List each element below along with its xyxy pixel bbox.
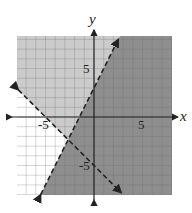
x-tick-neg5: -5 — [38, 117, 49, 132]
y-tick-neg5: -5 — [79, 158, 90, 173]
x-tick-pos5: 5 — [138, 117, 145, 132]
y-tick-pos5: 5 — [83, 61, 90, 76]
inequality-graph: x y 5 -5 5 -5 — [0, 0, 192, 213]
y-axis-label: y — [87, 11, 96, 27]
x-axis-label: x — [179, 108, 187, 124]
